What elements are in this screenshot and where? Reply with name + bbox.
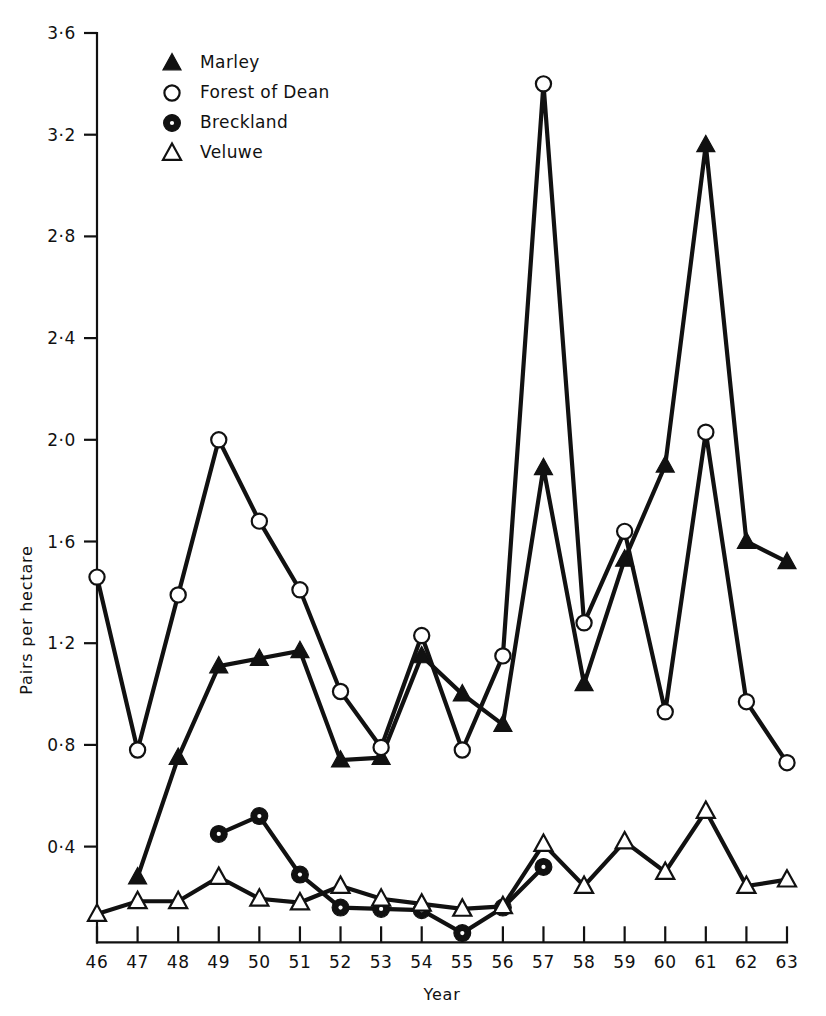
legend-item-veluwe: Veluwe <box>163 142 263 162</box>
data-point-marker-center <box>217 832 221 836</box>
x-axis-tick-label: 59 <box>613 952 636 972</box>
data-point-marker <box>495 648 510 663</box>
y-axis-title: Pairs per hectare <box>17 545 36 694</box>
data-point-marker-center <box>379 907 383 911</box>
y-axis-tick-label: 1·2 <box>47 633 76 653</box>
y-axis-tick-label: 0·8 <box>47 735 76 755</box>
y-axis-tick-label: 2·4 <box>47 328 76 348</box>
data-point-marker-center <box>541 865 545 869</box>
legend-item-marley: Marley <box>163 52 260 72</box>
data-point-marker <box>575 674 593 690</box>
chart-figure: 0·40·81·21·62·02·42·83·23·6 464748495051… <box>0 0 826 1016</box>
legend-label: Marley <box>200 52 260 72</box>
data-point-marker <box>210 868 228 884</box>
x-axis-tick-label: 54 <box>410 952 433 972</box>
data-point-marker <box>617 524 632 539</box>
data-point-marker <box>697 135 715 151</box>
legend-label: Forest of Dean <box>200 82 330 102</box>
x-axis-tick-label: 46 <box>86 952 109 972</box>
series-polyline <box>97 84 787 763</box>
y-axis-tick-label: 1·6 <box>47 532 76 552</box>
x-axis-tick-label: 49 <box>207 952 230 972</box>
data-point-marker <box>171 587 186 602</box>
data-point-marker <box>129 868 147 884</box>
data-point-marker <box>332 877 350 893</box>
data-point-marker <box>739 694 754 709</box>
y-axis-tick-label: 2·0 <box>47 430 76 450</box>
series-plot-area <box>88 76 796 941</box>
chart-legend: MarleyForest of DeanBrecklandVeluwe <box>163 52 330 162</box>
data-point-marker <box>778 870 796 886</box>
y-axis-tick-label: 2·8 <box>47 226 76 246</box>
x-axis-tick-label: 58 <box>573 952 596 972</box>
data-point-marker <box>697 802 715 818</box>
legend-item-forest-of-dean: Forest of Dean <box>164 82 329 102</box>
data-point-marker <box>534 458 552 474</box>
y-axis-tick-label: 3·2 <box>47 125 76 145</box>
data-point-marker <box>374 740 389 755</box>
x-axis-tick-label: 52 <box>329 952 352 972</box>
data-point-marker <box>455 742 470 757</box>
data-point-marker <box>252 514 267 529</box>
data-point-marker <box>292 582 307 597</box>
x-axis-tick-label: 50 <box>248 952 271 972</box>
y-axis-tick-label: 0·4 <box>47 837 76 857</box>
x-axis-tick-label: 61 <box>694 952 717 972</box>
x-axis-tick-label: 47 <box>126 952 149 972</box>
x-axis: 464748495051525354555657585960616263 <box>86 926 799 972</box>
x-axis-tick-label: 62 <box>735 952 758 972</box>
data-point-marker <box>534 835 552 851</box>
bird-density-line-chart: 0·40·81·21·62·02·42·83·23·6 464748495051… <box>0 0 826 1016</box>
data-point-marker <box>656 456 674 472</box>
data-point-marker <box>698 425 713 440</box>
y-axis-tick-label: 3·6 <box>47 23 76 43</box>
series-veluwe <box>88 802 796 921</box>
x-axis-tick-label: 48 <box>167 952 190 972</box>
data-point-marker-center <box>338 906 342 910</box>
data-point-marker <box>169 748 187 764</box>
legend-marker-open-triangle <box>163 144 181 160</box>
x-axis-tick-label: 60 <box>654 952 677 972</box>
data-point-marker <box>130 742 145 757</box>
data-point-marker <box>616 832 634 848</box>
data-point-marker <box>211 432 226 447</box>
data-point-marker <box>737 532 755 548</box>
x-axis-tick-label: 57 <box>532 952 555 972</box>
legend-marker-filled-circle-dot-center <box>170 121 174 125</box>
x-axis-title: Year <box>422 985 460 1004</box>
data-point-marker-center <box>460 931 464 935</box>
series-forest-of-dean <box>89 76 794 770</box>
data-point-marker <box>658 704 673 719</box>
x-axis-tick-label: 53 <box>370 952 393 972</box>
data-point-marker <box>333 684 348 699</box>
data-point-marker <box>779 755 794 770</box>
x-axis-tick-label: 51 <box>289 952 312 972</box>
x-axis-tick-label: 63 <box>776 952 799 972</box>
x-axis-tick-label: 55 <box>451 952 474 972</box>
series-polyline <box>138 145 787 877</box>
data-point-marker-center <box>298 872 302 876</box>
series-breckland <box>210 808 552 942</box>
legend-label: Veluwe <box>200 142 263 162</box>
data-point-marker <box>536 76 551 91</box>
legend-marker-open-circle <box>164 85 179 100</box>
legend-label: Breckland <box>200 112 288 132</box>
data-point-marker <box>414 628 429 643</box>
legend-marker-filled-triangle <box>163 54 181 70</box>
x-axis-tick-label: 56 <box>491 952 514 972</box>
y-axis: 0·40·81·21·62·02·42·83·23·6 <box>47 23 97 942</box>
series-polyline <box>97 811 787 914</box>
data-point-marker-center <box>257 814 261 818</box>
legend-item-breckland: Breckland <box>164 112 289 132</box>
data-point-marker <box>291 641 309 657</box>
data-point-marker <box>89 569 104 584</box>
data-point-marker <box>576 615 591 630</box>
